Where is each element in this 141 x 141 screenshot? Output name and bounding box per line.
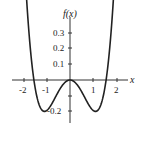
x-tick-label: -1 (42, 85, 50, 95)
x-tick-label: 2 (114, 85, 119, 95)
x-axis-label: x (129, 74, 135, 85)
y-tick-label: 0.2 (53, 43, 64, 53)
y-tick-label: 0.3 (53, 28, 65, 38)
function-plot: f(x) x -2 -1 1 2 0.3 0.2 0.1 -0.2 (0, 0, 141, 141)
x-tick-label: -2 (19, 85, 27, 95)
x-tick-label: 1 (91, 85, 96, 95)
y-tick-label: 0.1 (53, 59, 64, 69)
y-axis-label: f(x) (63, 8, 78, 20)
